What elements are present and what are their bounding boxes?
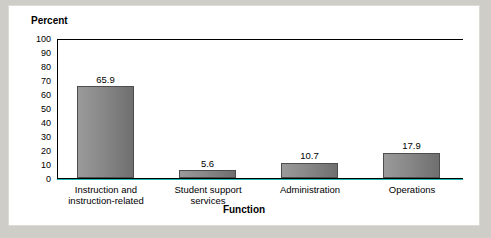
x-category-administration: Administration <box>265 184 355 195</box>
y-tick-0: 0 <box>29 175 51 184</box>
bar-group-instruction <box>77 39 134 178</box>
bar-value-operations: 17.9 <box>381 140 442 151</box>
bar-operations[interactable] <box>383 153 440 178</box>
chart-plot-area: Percent 100 90 80 70 60 50 40 30 20 10 0… <box>9 6 479 225</box>
y-axis-line <box>57 39 58 179</box>
bar-student-support[interactable] <box>179 170 236 178</box>
bar-group-operations <box>383 39 440 178</box>
y-tick-60: 60 <box>29 91 51 100</box>
y-tick-90: 90 <box>29 49 51 58</box>
y-tick-100: 100 <box>29 35 51 44</box>
bar-value-administration: 10.7 <box>279 150 340 161</box>
chart-card: Percent 100 90 80 70 60 50 40 30 20 10 0… <box>9 6 479 225</box>
bar-instruction[interactable] <box>77 86 134 178</box>
x-category-operations: Operations <box>367 184 457 195</box>
x-axis-accent-line <box>57 179 463 180</box>
x-axis-title: Function <box>9 204 479 215</box>
y-tick-80: 80 <box>29 63 51 72</box>
bar-value-student-support: 5.6 <box>177 158 238 169</box>
y-tick-70: 70 <box>29 77 51 86</box>
bar-value-instruction: 65.9 <box>75 74 136 85</box>
y-tick-20: 20 <box>29 147 51 156</box>
y-axis-title: Percent <box>31 15 68 26</box>
y-tick-40: 40 <box>29 119 51 128</box>
y-tick-10: 10 <box>29 161 51 170</box>
bar-administration[interactable] <box>281 163 338 178</box>
x-category-instruction: Instruction and instruction-related <box>59 184 153 206</box>
x-category-student-support: Student support services <box>163 184 253 206</box>
y-tick-30: 30 <box>29 133 51 142</box>
y-tick-50: 50 <box>29 105 51 114</box>
